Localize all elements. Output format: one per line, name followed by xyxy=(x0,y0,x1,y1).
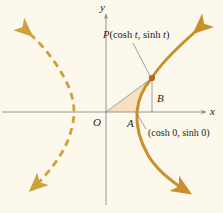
origin-label: O xyxy=(93,117,101,128)
point-a-annotation: (cosh 0, sinh 0) xyxy=(148,128,210,138)
point-p-label-close: ) xyxy=(166,29,170,40)
point-p-label-open: (cosh xyxy=(109,29,134,40)
point-marker-p xyxy=(149,75,155,81)
point-p-label-mid: , sinh xyxy=(138,29,163,40)
point-p-label: P(cosh t, sinh t) xyxy=(103,30,170,41)
left-branch-curve xyxy=(30,34,74,189)
leader-line-p-label xyxy=(133,43,150,76)
right-branch-curve xyxy=(137,31,196,192)
hyperbolic-function-figure: y x O A B P(cosh t, sinh t) (cosh 0, sin… xyxy=(0,0,223,213)
point-b-label: B xyxy=(157,93,164,104)
y-axis-label: y xyxy=(100,2,105,13)
point-a-label: A xyxy=(127,118,134,129)
x-axis-label: x xyxy=(210,106,215,117)
